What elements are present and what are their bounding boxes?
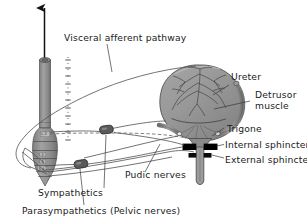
leader-internal-sphincter	[217, 145, 225, 147]
label-parasympathetics: Parasympathetics (Pelvic nerves)	[22, 205, 180, 216]
pelvic-ganglion	[74, 159, 89, 169]
afferent-to-cord	[50, 133, 186, 138]
urethra	[196, 147, 204, 185]
label-pudic-nerves: Pudic nerves	[125, 169, 186, 180]
sympathetic-ganglion	[99, 125, 113, 135]
diagram-canvas: L 2 S 2 S 3 S 4	[0, 0, 307, 222]
leader-external-sphincter	[212, 155, 224, 158]
label-external-sphincter: External sphincter	[225, 154, 307, 165]
label-internal-sphincter: Internal sphincter	[225, 139, 307, 150]
label-detrusor-muscle-line2: muscle	[255, 100, 289, 111]
bladder-innervation-figure: L 2 S 2 S 3 S 4	[0, 0, 307, 222]
sympathetic-chain	[65, 57, 70, 142]
label-detrusor-muscle-line1: Detrusor	[255, 89, 297, 100]
leader-pudic-nerves	[145, 144, 160, 172]
spinal-cord: L 2 S 2 S 3 S 4	[33, 58, 58, 186]
label-ureter: Ureter	[231, 71, 261, 82]
label-visceral-afferent-pathway: Visceral afferent pathway	[64, 32, 187, 43]
label-sympathetics: Sympathetics	[38, 187, 103, 198]
label-trigone: Trigone	[226, 123, 262, 134]
leader-visceral-afferent	[107, 44, 112, 72]
spinal-segment-label-l2: L 2	[41, 132, 46, 136]
spinal-segment-label-s2: S 2	[38, 153, 44, 157]
